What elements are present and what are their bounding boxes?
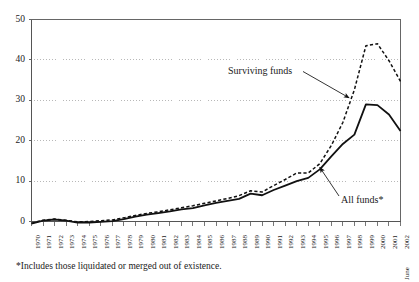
- series-line-all-funds: [32, 104, 401, 223]
- x-tick-label: 1985: [207, 235, 214, 249]
- x-tick-label: 1974: [81, 235, 88, 249]
- x-tick-label: 1990: [265, 235, 272, 249]
- x-tick-label: 1971: [46, 235, 53, 249]
- x-tick-label: 1992: [288, 235, 295, 249]
- x-tick-label: 1970: [35, 235, 42, 249]
- x-tick-label: 1976: [104, 235, 111, 249]
- series-label-all-funds: All funds*: [341, 195, 384, 205]
- chart-figure: 01020304050 1970197119721973197419751976…: [0, 0, 419, 282]
- leader-line-all-funds: [320, 167, 339, 196]
- y-tick-label: 20: [3, 136, 25, 146]
- x-tick-label: 1991: [277, 235, 284, 249]
- x-tick-label: 2002: [404, 235, 411, 249]
- gridlines: [32, 60, 401, 181]
- x-tick-label: 1978: [127, 235, 134, 249]
- chart-footnote: *Includes those liquidated or merged out…: [16, 261, 222, 272]
- x-tick-label: 1975: [92, 235, 99, 249]
- x-tick-label: 1973: [69, 235, 76, 249]
- x-tick-label: 1997: [346, 235, 353, 249]
- x-tick-label: 1981: [161, 235, 168, 249]
- x-axis-month-note: June: [404, 267, 411, 280]
- x-tick-label: 1998: [357, 235, 364, 249]
- x-tick-label: 1984: [196, 235, 203, 249]
- x-tick-label: 1983: [184, 235, 191, 249]
- x-tick-label: 1986: [219, 235, 226, 249]
- leader-line-surviving-funds: [303, 72, 349, 98]
- chart-axes: [32, 20, 401, 222]
- x-tick-label: 1988: [242, 235, 249, 249]
- x-tick-label: 1987: [231, 235, 238, 249]
- x-tick-label: 2000: [380, 235, 387, 249]
- y-tick-label: 30: [3, 95, 25, 105]
- x-tick-label: 1989: [254, 235, 261, 249]
- x-tick-label: 1977: [115, 235, 122, 249]
- series-label-surviving-funds: Surviving funds: [228, 66, 292, 76]
- x-tick-label: 1995: [323, 235, 330, 249]
- x-tick-label: 1979: [138, 235, 145, 249]
- x-tick-label: 1972: [58, 235, 65, 249]
- x-tick-label: 1999: [369, 235, 376, 249]
- x-tick-label: 1980: [150, 235, 157, 249]
- x-tick-label: 1996: [334, 235, 341, 249]
- x-tick-label: 1994: [311, 235, 318, 249]
- x-tick-label: 1993: [300, 235, 307, 249]
- y-tick-label: 0: [3, 217, 25, 227]
- x-tick-label: 1982: [173, 235, 180, 249]
- y-tick-label: 10: [3, 176, 25, 186]
- y-tick-label: 40: [3, 55, 25, 65]
- y-tick-label: 50: [3, 15, 25, 25]
- x-tick-label: 2001: [392, 235, 399, 249]
